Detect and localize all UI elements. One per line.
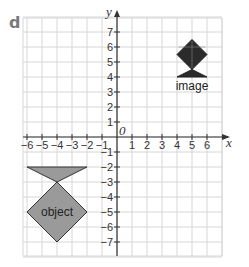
x-tick-label: 5	[189, 139, 195, 151]
y-tick-label: −4	[100, 191, 113, 203]
x-tick-label: −3	[66, 139, 79, 151]
y-tick-label: 2	[107, 101, 113, 113]
y-tick-label: −2	[100, 161, 113, 173]
x-tick-label: −4	[51, 139, 64, 151]
y-tick-label: 1	[107, 116, 113, 128]
y-axis-label: y	[104, 4, 112, 19]
y-tick-label: 7	[107, 26, 113, 38]
x-tick-label: 2	[144, 139, 150, 151]
y-tick-label: 5	[107, 56, 113, 68]
y-tick-label: −3	[100, 176, 113, 188]
x-axis-label: x	[225, 135, 232, 150]
image-label: image	[176, 79, 209, 93]
x-tick-label: 3	[159, 139, 165, 151]
y-tick-label: 4	[107, 71, 113, 83]
object-triangle	[27, 167, 87, 182]
origin-label: 0	[119, 123, 126, 138]
object-label: object	[41, 205, 74, 219]
y-tick-label: −5	[100, 206, 113, 218]
y-tick-label: −1	[100, 146, 113, 158]
x-tick-label: −5	[36, 139, 49, 151]
x-tick-label: 1	[129, 139, 135, 151]
y-tick-label: −7	[100, 236, 113, 248]
x-tick-label: 4	[174, 139, 180, 151]
x-tick-label: −6	[21, 139, 34, 151]
coordinate-grid: −6−5−4−3−2−11234567654321−1−2−3−4−5−6−70…	[0, 0, 249, 267]
y-axis-arrow-icon	[114, 10, 120, 17]
y-tick-label: 6	[107, 41, 113, 53]
image-triangle	[177, 70, 207, 78]
y-tick-label: −6	[100, 221, 113, 233]
x-tick-label: 6	[204, 139, 210, 151]
x-tick-label: −2	[81, 139, 94, 151]
y-tick-label: 3	[107, 86, 113, 98]
